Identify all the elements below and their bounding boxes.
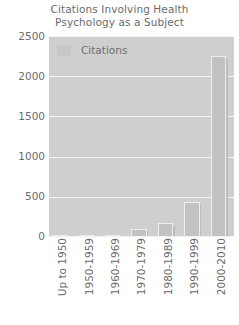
bar-1980-1989[interactable] (158, 223, 173, 237)
x-tick-1950-1959: 1950-1959 (75, 238, 101, 322)
bar-slot-up-to-1950 (49, 36, 75, 237)
y-axis-labels: 0 500 1000 1500 2000 2500 (0, 36, 45, 237)
x-tick-label-1950-1959: 1950-1959 (83, 238, 94, 295)
bar-slot-1990-1999 (181, 36, 207, 237)
bar-slot-1970-1979 (128, 36, 154, 237)
bar-slot-2000-2010 (208, 36, 234, 237)
x-tick-up-to-1950: Up to 1950 (49, 238, 75, 322)
chart-legend: Citations (57, 45, 127, 56)
x-tick-1970-1979: 1970-1979 (128, 238, 154, 322)
x-tick-label-up-to-1950: Up to 1950 (57, 238, 68, 296)
plot-area (49, 36, 234, 237)
y-tick-label-1000: 1000 (1, 151, 45, 162)
chart-title-line-1: Citations Involving Health (0, 3, 239, 16)
bars-layer (49, 36, 234, 237)
x-tick-label-1970-1979: 1970-1979 (136, 238, 147, 295)
x-tick-1990-1999: 1990-1999 (181, 238, 207, 322)
legend-label-citations: Citations (81, 45, 127, 56)
legend-swatch-citations (57, 45, 71, 56)
y-tick-label-2000: 2000 (1, 71, 45, 82)
x-tick-1960-1969: 1960-1969 (102, 238, 128, 322)
x-tick-label-2000-2010: 2000-2010 (215, 238, 226, 295)
y-tick-label-2500: 2500 (1, 31, 45, 42)
x-tick-label-1990-1999: 1990-1999 (189, 238, 200, 295)
x-tick-1980-1989: 1980-1989 (155, 238, 181, 322)
bar-slot-1950-1959 (75, 36, 101, 237)
chart-title: Citations Involving Health Psychology as… (0, 3, 239, 29)
bar-1990-1999[interactable] (184, 202, 199, 237)
chart-container: Citations Involving Health Psychology as… (0, 0, 239, 325)
x-tick-2000-2010: 2000-2010 (208, 238, 234, 322)
bar-2000-2010[interactable] (211, 56, 226, 237)
x-tick-label-1980-1989: 1980-1989 (162, 238, 173, 295)
y-tick-label-1500: 1500 (1, 111, 45, 122)
bar-slot-1960-1969 (102, 36, 128, 237)
chart-title-line-2: Psychology as a Subject (0, 16, 239, 29)
bar-slot-1980-1989 (155, 36, 181, 237)
plot-inner (49, 36, 234, 237)
y-tick-label-0: 0 (1, 231, 45, 242)
y-tick-label-500: 500 (1, 191, 45, 202)
x-axis-baseline (49, 236, 234, 237)
x-tick-label-1960-1969: 1960-1969 (110, 238, 121, 295)
x-axis-labels: Up to 1950 1950-1959 1960-1969 1970-1979… (49, 238, 234, 322)
